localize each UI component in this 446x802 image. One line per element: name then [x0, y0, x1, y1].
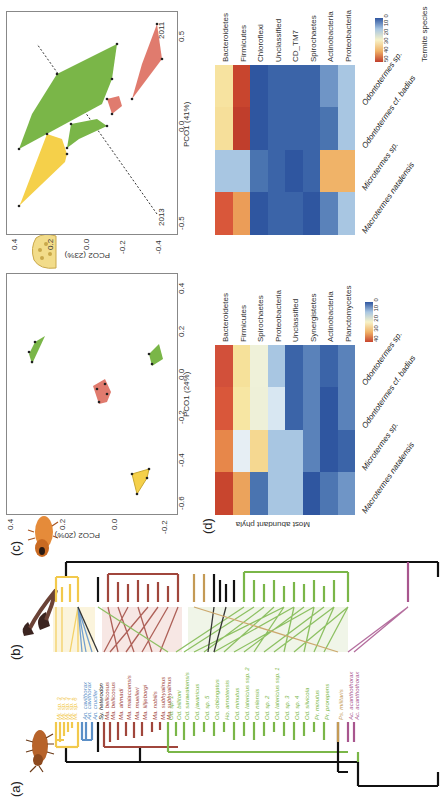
row-label: Bacteroidetes: [217, 286, 235, 342]
species-label: Od. sp. 4: [295, 696, 299, 720]
pco1-xtick: 0.4: [177, 283, 186, 294]
row-label: Spirochaetes: [305, 10, 323, 62]
pco2-xtick: 0.5: [177, 31, 186, 42]
pco2-xtick: 0.0: [177, 121, 186, 132]
species-label: Pr. prorepens: [325, 684, 329, 720]
row-label: CD_TM7: [287, 10, 305, 62]
heatmap2-col-label: Macrotermes natalensis: [360, 160, 416, 235]
species-label: Od. sp. 2: [265, 696, 269, 720]
legend-tick: 10: [383, 20, 389, 27]
panel-label-c: (c): [8, 541, 23, 556]
heatmap2-col-label: Odontotermes cf. badius: [360, 74, 417, 151]
species-label: Pr. minutus: [315, 690, 319, 720]
legend-tick: 0: [373, 298, 379, 301]
species-label: Ma. bellicosus: [111, 682, 115, 720]
species-label: Od. sarawakensis: [185, 672, 189, 720]
species-label: Od. latericius ssp. 1: [275, 667, 279, 720]
pco1-ytick: 0.0: [110, 519, 119, 530]
year-2013-label: 2013: [157, 208, 166, 226]
heatmap-xlabel-termite-species: Termite species: [420, 6, 429, 62]
pco1-xtick: -0.4: [177, 453, 186, 467]
heatmap2-colorbar: 50403020100: [375, 14, 389, 62]
species-label: Od. silvicola: [305, 688, 309, 720]
heatmap-phyla-2: [215, 65, 355, 235]
species-label: Ma. ahmadi: [119, 689, 123, 720]
row-label: Proteobacteria: [340, 10, 358, 62]
species-label: Ma. malaccensis: [127, 675, 131, 720]
species-label: Ps. militaris: [339, 689, 343, 720]
heatmap1-ylabel: Most abundant phyla: [236, 520, 310, 529]
fungus-comb-icon: [30, 232, 60, 272]
pco2-ytick: 0.2: [46, 239, 55, 250]
heatmap1-col-label: Odontotermes cf. badius: [360, 354, 417, 431]
heatmap1-colorbar: 403020100: [365, 298, 379, 342]
pco2-xtick: -0.5: [177, 216, 186, 230]
row-label: Chloroflexi: [252, 10, 270, 62]
species-label: An. cavithorax: [87, 682, 91, 720]
pco-scatter-1: [7, 274, 177, 514]
species-label: Ma. subhyalinus: [161, 677, 165, 720]
species-label: Ma. muelleri: [135, 687, 139, 720]
row-label: Firmicutes: [235, 10, 253, 62]
species-label: Ma. lilljeborgi: [143, 685, 147, 720]
species-label: Od. oblongatus: [215, 679, 219, 720]
pco2-ylabel: PCO2 (23%): [65, 251, 110, 260]
heatmap1-col-label: Macrotermes natalensis: [360, 440, 416, 515]
species-label: An. crucifer: [93, 690, 97, 720]
species-label: Od. sp. 5: [205, 696, 209, 720]
pco-scatter-2: [7, 12, 177, 234]
species-label: Od. latericius ssp. 2: [245, 667, 249, 720]
row-label: Bacteroidetes: [217, 10, 235, 62]
pco1-ylabel: PCO2 (20%): [55, 531, 100, 540]
heatmap2-row-labels: Bacteroidetes Firmicutes Chloroflexi Unc…: [217, 10, 357, 62]
termite-soldier-icon: [28, 512, 58, 562]
legend-tick: 50: [383, 55, 389, 62]
pco1-xtick: -0.6: [177, 496, 186, 510]
panel-label-d: (d): [200, 518, 215, 534]
species-label: Mi. sp. 6: [73, 697, 77, 720]
species-label: Ma. bellicosus: [105, 682, 109, 720]
row-label: Spirochaetes: [252, 286, 270, 342]
row-label: Actinobacteria: [322, 10, 340, 62]
pco2-ytick: -0.4: [154, 240, 163, 254]
species-label: Ma. nobilis: [153, 691, 157, 720]
row-label: Planctomycetes: [340, 286, 358, 342]
pco1-ytick: 0.4: [6, 519, 15, 530]
row-label: Synergistetes: [305, 286, 323, 342]
species-label: Od. sp. 3: [285, 696, 289, 720]
year-2011-label: 2011: [157, 22, 166, 39]
row-label: Proteobacteria: [270, 286, 288, 342]
heatmap-phyla-1: [215, 345, 355, 515]
species-label: Ac. acanthothorax: [355, 672, 359, 720]
legend-tick: 20: [383, 29, 389, 36]
legend-tick: 30: [383, 37, 389, 44]
pco1-xtick: 0.2: [177, 326, 186, 337]
panel-label-a: (a): [8, 781, 23, 797]
panel-label-b: (b): [8, 644, 23, 660]
row-label: Unclassified: [287, 286, 305, 342]
row-label: Actinobacteria: [322, 286, 340, 342]
pco2-ytick: 0.4: [10, 239, 19, 250]
row-label: Firmicutes: [235, 286, 253, 342]
pco1-ytick: -0.2: [160, 520, 169, 534]
pco-plot-2011-2013: 2013 2011: [6, 11, 178, 235]
pco-plot-2013-2011-left: [6, 273, 178, 515]
legend-tick: 30: [373, 325, 379, 332]
legend-tick: 40: [373, 335, 379, 342]
heatmap1-row-labels: Bacteroidetes Firmicutes Spirochaetes Pr…: [217, 286, 357, 342]
legend-tick: 0: [383, 14, 389, 17]
row-label: Unclassified: [270, 10, 288, 62]
species-label: Ho. annotensis: [225, 680, 229, 720]
legend-tick: 20: [373, 315, 379, 322]
species-label: Od. sp. 1: [169, 696, 173, 720]
figure: (a) (b) (c) (d): [0, 0, 446, 802]
legend-tick: 10: [373, 305, 379, 312]
pco2-ytick: 0.0: [82, 239, 91, 250]
species-label: Ac. acanthothorax: [349, 672, 353, 720]
species-label: Sy. heterodon: [99, 683, 103, 720]
pco2-ytick: -0.2: [118, 240, 127, 254]
species-label: Od. nilensis: [255, 689, 259, 720]
species-label: Od. minutus: [235, 688, 239, 720]
pco1-xtick: 0.0: [177, 369, 186, 380]
pco1-ytick: 0.2: [58, 519, 67, 530]
